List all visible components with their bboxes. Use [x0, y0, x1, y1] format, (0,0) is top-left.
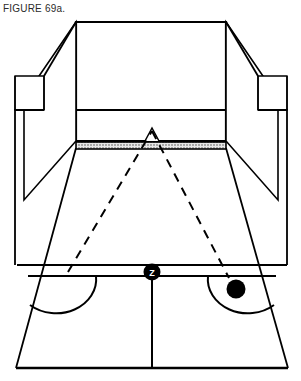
- far-wall-upper-panel: [76, 22, 226, 110]
- net-band-group: [76, 142, 226, 149]
- figure-page: FIGURE 69a.: [0, 0, 301, 381]
- right-wall-panel-top: [258, 76, 287, 110]
- net-band: [76, 142, 226, 149]
- ball-marker[interactable]: [227, 280, 246, 299]
- left-wall-panel-top: [15, 76, 44, 110]
- player-position-z-label: Z: [149, 268, 155, 278]
- court-diagram: Z: [0, 0, 301, 381]
- player-position-z-marker[interactable]: Z: [144, 264, 161, 281]
- far-wall-group: [76, 22, 226, 141]
